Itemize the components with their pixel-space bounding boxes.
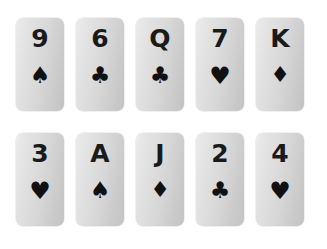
playing-card[interactable]: K ♦ bbox=[256, 18, 304, 111]
playing-card[interactable]: 3 ♥ bbox=[16, 133, 64, 226]
playing-card[interactable]: J ♦ bbox=[136, 133, 184, 226]
card-rank: 6 bbox=[91, 26, 108, 51]
playing-card-grid: 9 ♠ 6 ♣ Q ♣ 7 ♥ K ♦ 3 ♥ A ♠ J bbox=[0, 0, 327, 249]
card-row-top: 9 ♠ 6 ♣ Q ♣ 7 ♥ K ♦ bbox=[0, 18, 327, 111]
playing-card[interactable]: 6 ♣ bbox=[76, 18, 124, 111]
playing-card[interactable]: 2 ♣ bbox=[196, 133, 244, 226]
card-rank: 3 bbox=[31, 141, 48, 166]
club-icon: ♣ bbox=[90, 64, 111, 87]
heart-icon: ♥ bbox=[209, 64, 231, 88]
playing-card[interactable]: 4 ♥ bbox=[256, 133, 304, 226]
card-rank: 7 bbox=[211, 26, 228, 51]
spade-icon: ♠ bbox=[30, 64, 51, 87]
card-rank: A bbox=[90, 141, 109, 166]
club-icon: ♣ bbox=[210, 179, 231, 202]
card-rank: Q bbox=[149, 26, 170, 51]
diamond-icon: ♦ bbox=[270, 64, 290, 86]
playing-card[interactable]: 9 ♠ bbox=[16, 18, 64, 111]
playing-card[interactable]: 7 ♥ bbox=[196, 18, 244, 111]
playing-card[interactable]: Q ♣ bbox=[136, 18, 184, 111]
card-rank: 4 bbox=[271, 141, 288, 166]
card-rank: J bbox=[155, 141, 164, 166]
club-icon: ♣ bbox=[150, 64, 171, 87]
card-row-bottom: 3 ♥ A ♠ J ♦ 2 ♣ 4 ♥ bbox=[0, 133, 327, 226]
heart-icon: ♥ bbox=[29, 179, 51, 203]
diamond-icon: ♦ bbox=[150, 179, 170, 201]
playing-card[interactable]: A ♠ bbox=[76, 133, 124, 226]
spade-icon: ♠ bbox=[90, 179, 111, 202]
card-rank: 2 bbox=[211, 141, 228, 166]
heart-icon: ♥ bbox=[269, 179, 291, 203]
card-rank: K bbox=[270, 26, 289, 51]
card-rank: 9 bbox=[31, 26, 48, 51]
